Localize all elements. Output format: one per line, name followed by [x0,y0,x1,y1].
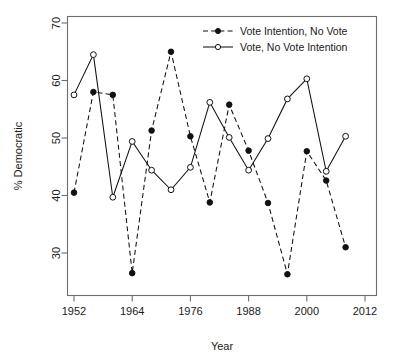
data-point [207,99,213,105]
y-axis-title: % Democratic [12,121,24,190]
x-tick-label-2012: 2012 [353,305,377,317]
x-tick-label-1988: 1988 [236,305,260,317]
x-axis-title: Year [211,340,234,352]
data-point [110,194,116,200]
data-point [304,76,310,82]
data-point [91,52,97,58]
legend-label-0: Vote Intention, No Vote [240,25,348,37]
x-tick-label-1964: 1964 [120,305,144,317]
data-point [110,92,116,98]
y-tick-label-40: 40 [50,189,62,201]
data-point [265,136,271,142]
data-point [246,167,252,173]
data-point [149,167,155,173]
data-point [285,96,291,102]
data-point [188,133,194,139]
data-point [285,271,291,277]
data-point [129,270,135,276]
y-tick-label-60: 60 [50,74,62,86]
data-point [323,168,329,174]
y-tick-label-30: 30 [50,247,62,259]
y-tick-label-50: 50 [50,132,62,144]
data-point [168,49,174,55]
data-point [149,128,155,134]
legend-label-1: Vote, No Vote Intention [240,41,348,53]
x-tick-label-2000: 2000 [295,305,319,317]
data-point [343,133,349,139]
line-chart: 3040506070 195219641976198820002012 Year… [0,0,393,362]
data-point [71,190,77,196]
data-point [226,102,232,108]
data-point [188,164,194,170]
data-point [91,89,97,95]
data-point [207,200,213,206]
data-point [71,92,77,98]
x-tick-label-1952: 1952 [62,305,86,317]
data-point [343,244,349,250]
data-point [129,139,135,145]
legend-marker-open-circle [215,44,220,49]
legend-marker-filled-circle [215,28,220,33]
chart-container: 3040506070 195219641976198820002012 Year… [0,0,393,362]
data-point [265,200,271,206]
data-point [168,187,174,193]
data-point [304,148,310,154]
data-point [226,135,232,141]
data-point [323,178,329,184]
y-tick-label-70: 70 [50,17,62,29]
data-point [246,148,252,154]
x-tick-label-1976: 1976 [178,305,202,317]
